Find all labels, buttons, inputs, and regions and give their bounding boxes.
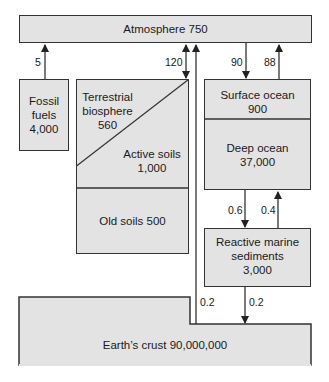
flux-crust-up-label: 0.2 <box>200 296 215 308</box>
flux-ocean-down-label: 90 <box>231 56 243 68</box>
terrestrial-biosphere-label: Terrestrial biosphere 560 <box>80 90 135 132</box>
flux-deep-up-label: 0.4 <box>261 204 276 216</box>
active-soils-label: Active soils 1,000 <box>118 147 186 175</box>
flux-ocean-up-label: 88 <box>264 56 276 68</box>
flux-fossil-label: 5 <box>35 56 41 68</box>
old-soils-label: Old soils 500 <box>76 214 189 228</box>
flux-deep-down-label: 0.6 <box>228 204 243 216</box>
deep-ocean-label: Deep ocean 37,000 <box>204 141 311 169</box>
atmosphere-label: Atmosphere 750 <box>19 22 312 36</box>
fossil-fuels-label: Fossil fuels 4,000 <box>19 94 69 136</box>
reactive-sediments-label: Reactive marine sediments 3,000 <box>204 235 311 277</box>
surface-ocean-label: Surface ocean 900 <box>204 88 311 116</box>
flux-terrestrial-label: 120 <box>165 56 183 68</box>
earths-crust-label: Earth’s crust 90,000,000 <box>19 338 311 352</box>
flux-sediment-down-label: 0.2 <box>249 296 264 308</box>
